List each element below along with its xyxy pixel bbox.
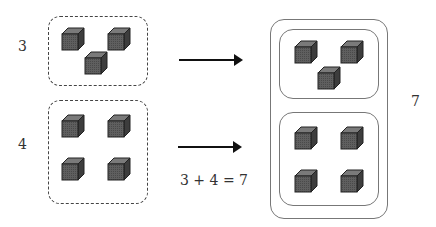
result-count-label: 7 <box>411 93 420 109</box>
combined-inner-box-top <box>279 29 379 99</box>
cube-icon <box>84 51 108 75</box>
combined-outer-box <box>270 19 388 219</box>
cube-icon <box>340 169 364 193</box>
group-1-count-label: 3 <box>18 38 27 54</box>
cube-icon <box>294 126 318 150</box>
cube-icon <box>107 27 131 51</box>
cube-icon <box>317 66 341 90</box>
arrow-right-icon <box>178 146 240 148</box>
cube-icon <box>294 169 318 193</box>
cube-icon <box>340 40 364 64</box>
cube-icon <box>107 114 131 138</box>
group-1-dashed-box <box>48 16 148 86</box>
combined-inner-box-bottom <box>279 112 379 206</box>
group-2-count-label: 4 <box>18 136 27 152</box>
cube-icon <box>61 114 85 138</box>
cube-icon <box>61 157 85 181</box>
cube-icon <box>294 40 318 64</box>
group-2-dashed-box <box>48 100 148 204</box>
arrow-right-icon <box>179 59 241 61</box>
equation-label: 3 + 4 = 7 <box>180 172 248 188</box>
cube-icon <box>107 157 131 181</box>
cube-icon <box>61 27 85 51</box>
cube-icon <box>340 126 364 150</box>
